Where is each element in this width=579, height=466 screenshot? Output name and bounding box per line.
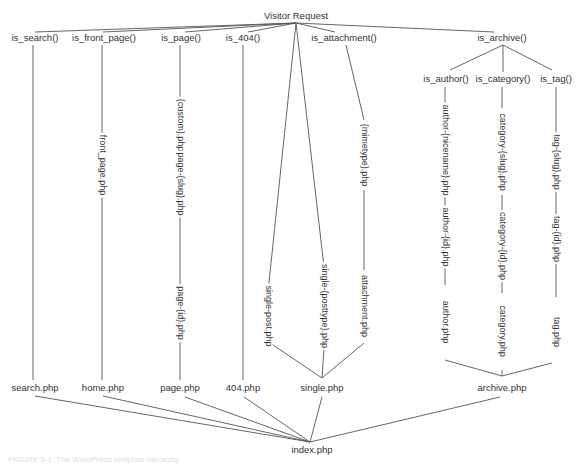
single-post-template: single-post.php <box>264 283 273 348</box>
404-php-node: 404.php <box>225 383 261 393</box>
single-php-node: single.php <box>299 383 344 393</box>
is-search-node: is_search() <box>11 33 60 43</box>
front-page-template: front_page.php <box>98 133 107 198</box>
is-front-page-node: is_front_page() <box>71 33 137 43</box>
attachment-template: attachment.php <box>360 273 369 339</box>
is-tag-node: is_tag() <box>539 74 573 84</box>
is-category-node: is_category() <box>475 74 532 84</box>
category-id-template: category-{id}.php <box>498 210 507 282</box>
mimetype-template: {mimetype}.php <box>360 122 369 189</box>
author-template: author.php <box>441 299 450 346</box>
home-php-node: home.php <box>81 383 125 393</box>
tag-template: tag.php <box>552 315 561 349</box>
category-template: category.php <box>498 303 507 358</box>
is-page-node: is_page() <box>160 33 202 43</box>
figure-caption: FIGURE 6-1: The WordPress template hiera… <box>8 455 180 464</box>
page-slug-template: page-{slug}.php <box>176 150 185 217</box>
is-attachment-node: is_attachment() <box>310 33 377 43</box>
category-slug-template: category-{slug}.php <box>498 111 507 193</box>
author-nicename-template: author-{nicename}.php <box>441 102 450 197</box>
search-php-node: search.php <box>10 383 59 393</box>
is-author-node: is_author() <box>422 74 469 84</box>
hierarchy-edges <box>0 0 579 466</box>
visitor-request-node: Visitor Request <box>263 11 329 21</box>
tag-id-template: tag-{id}.php <box>552 214 561 264</box>
page-custom-template: {custom}.php <box>176 97 185 154</box>
page-id-template: page-{id}.php <box>176 284 185 342</box>
index-php-node: index.php <box>290 445 333 455</box>
author-id-template: author-{id}.php <box>441 205 450 268</box>
is-archive-node: is_archive() <box>476 33 527 43</box>
tag-slug-template: tag-{slug}.php <box>552 132 561 192</box>
archive-php-node: archive.php <box>476 383 527 393</box>
page-php-node: page.php <box>159 383 201 393</box>
single-posttype-template: single-{posttype}.php <box>320 262 329 350</box>
is-404-node: is_404() <box>225 33 261 43</box>
